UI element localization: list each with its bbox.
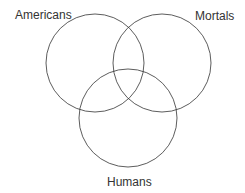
mortals-circle xyxy=(113,14,211,112)
americans-label: Americans xyxy=(15,8,72,22)
venn-diagram xyxy=(0,0,245,193)
americans-circle xyxy=(46,14,144,112)
humans-circle xyxy=(79,69,177,167)
humans-label: Humans xyxy=(107,175,152,189)
mortals-label: Mortals xyxy=(195,9,234,23)
